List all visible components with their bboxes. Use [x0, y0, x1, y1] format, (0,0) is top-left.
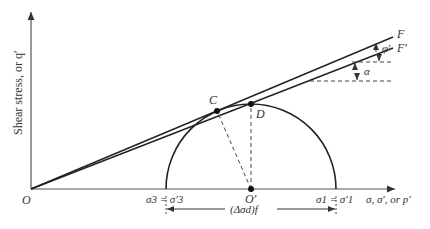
point-c-label: C	[209, 93, 218, 107]
sigma3-label: σ3 = σ′3	[146, 193, 184, 205]
alpha-label: α	[364, 65, 370, 77]
failure-envelope-f-prime	[31, 48, 393, 189]
origin-label: O	[22, 193, 31, 207]
point-c	[214, 108, 220, 114]
point-d-label: D	[255, 107, 265, 121]
phi-label: φ′	[382, 42, 391, 54]
line-f-label: F	[396, 27, 405, 41]
radius-to-c	[217, 111, 251, 189]
deviator-label: (Δσd)f	[230, 203, 260, 216]
mohr-circle-diagram: Shear stress, or q′ O O′ C D F F′ φ′ α σ…	[0, 0, 430, 229]
y-axis-label: Shear stress, or q′	[11, 50, 25, 135]
sigma1-label: σ1 = σ′1	[316, 193, 353, 205]
x-axis-label: σ, σ′, or p′	[366, 193, 411, 205]
line-f-prime-label: F′	[396, 41, 407, 55]
point-d	[248, 101, 254, 107]
